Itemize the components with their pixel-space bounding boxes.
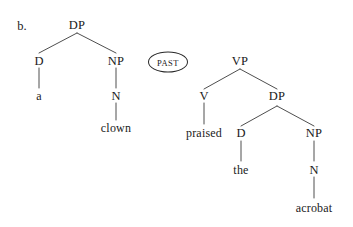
tense-node-label: PAST <box>157 57 179 67</box>
branch-dp2-to-d <box>241 106 277 126</box>
tree-branch-lines <box>0 0 353 227</box>
node-object-dp: DP <box>269 90 285 103</box>
branch-vp-to-dp <box>240 69 277 89</box>
terminal-the: the <box>233 164 248 176</box>
node-object-n: N <box>309 164 318 177</box>
branch-dp-to-np <box>77 33 116 53</box>
node-subject-n: N <box>111 90 120 103</box>
node-object-np: NP <box>306 127 322 140</box>
node-vp: VP <box>232 55 248 68</box>
node-subject-d: D <box>34 55 43 68</box>
node-subject-np: NP <box>108 55 124 68</box>
terminal-clown: clown <box>101 122 131 134</box>
terminal-acrobat: acrobat <box>296 202 333 214</box>
branch-dp2-to-np <box>277 106 314 126</box>
tense-node-past: PAST <box>148 52 188 73</box>
terminal-a: a <box>36 90 42 102</box>
branch-dp-to-d <box>39 33 77 53</box>
node-object-d: D <box>236 127 245 140</box>
branch-vp-to-v <box>204 69 240 89</box>
node-v: V <box>199 90 208 103</box>
terminal-praised: praised <box>186 127 222 139</box>
syntax-tree-figure: b. DP D NP a N clown PAST VP V DP praise… <box>0 0 353 227</box>
figure-item-label: b. <box>17 19 26 34</box>
node-subject-dp: DP <box>69 19 85 32</box>
